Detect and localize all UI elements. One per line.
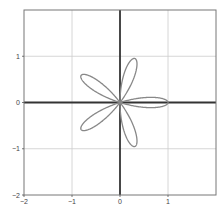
svg-text:−1: −1 xyxy=(12,145,20,152)
svg-text:0: 0 xyxy=(118,198,122,205)
svg-text:−2: −2 xyxy=(20,198,28,205)
chart: −2−101 −2−101 xyxy=(0,0,223,215)
svg-text:−2: −2 xyxy=(12,192,20,199)
svg-text:−1: −1 xyxy=(68,198,76,205)
x-tick-labels: −2−101 xyxy=(20,195,170,205)
y-tick-labels: −2−101 xyxy=(12,53,24,199)
svg-text:0: 0 xyxy=(16,99,20,106)
svg-text:1: 1 xyxy=(166,198,170,205)
svg-text:1: 1 xyxy=(16,53,20,60)
